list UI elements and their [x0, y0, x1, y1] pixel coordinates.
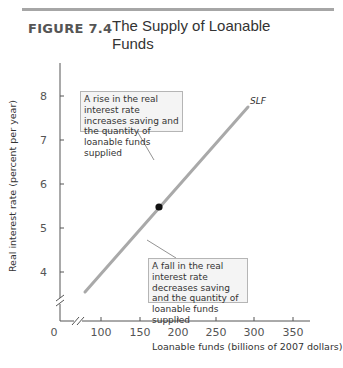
y-tick-4: 4 [40, 266, 47, 279]
leader-line-fall [147, 240, 176, 258]
x-tick-200: 200 [168, 326, 189, 339]
slf-label: SLF [250, 96, 266, 106]
note-fall: A fall in the real interest rate decreas… [148, 258, 248, 303]
y-tick-7: 7 [40, 134, 47, 147]
y-tick-5: 5 [40, 222, 47, 235]
x-tick-250: 250 [206, 326, 227, 339]
y-tick-8: 8 [40, 90, 47, 103]
x-tick-0: 0 [51, 326, 58, 339]
y-ticks [60, 96, 64, 272]
y-axis-label: Real interest rate (percent per year) [7, 100, 18, 272]
highlight-point [155, 203, 162, 210]
x-tick-300: 300 [244, 326, 265, 339]
x-axis-label: Loanable funds (billions of 2007 dollars… [152, 341, 343, 352]
note-rise: A rise in the real interest rate increas… [80, 91, 183, 132]
x-ticks [101, 317, 293, 321]
x-tick-100: 100 [91, 326, 112, 339]
y-tick-6: 6 [40, 178, 47, 191]
x-tick-350: 350 [283, 326, 304, 339]
x-tick-150: 150 [130, 326, 151, 339]
